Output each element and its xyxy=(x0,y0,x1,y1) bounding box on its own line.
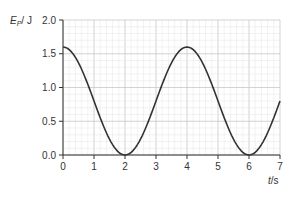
y-tick-label: 2.0 xyxy=(42,15,56,26)
x-tick-label: 5 xyxy=(215,161,221,172)
x-tick-label: 6 xyxy=(246,161,252,172)
x-tick-label: 7 xyxy=(277,161,283,172)
x-tick-label: 1 xyxy=(91,161,97,172)
y-tick-label: 0.5 xyxy=(42,116,56,127)
x-tick-label: 4 xyxy=(184,161,190,172)
x-axis-label: t/s xyxy=(268,175,279,186)
x-tick-labels: 01234567 xyxy=(60,161,283,172)
x-tick-label: 2 xyxy=(122,161,128,172)
x-tick-label: 3 xyxy=(153,161,159,172)
y-tick-label: 1.5 xyxy=(42,48,56,59)
y-axis-label: EP/ J xyxy=(10,15,32,27)
y-tick-label: 0.0 xyxy=(42,150,56,161)
chart: 0.00.51.01.52.0 01234567 EP/ J t/s xyxy=(0,0,300,200)
y-tick-labels: 0.00.51.01.52.0 xyxy=(42,15,56,161)
grid xyxy=(63,20,280,155)
x-tick-label: 0 xyxy=(60,161,66,172)
y-tick-label: 1.0 xyxy=(42,82,56,93)
axes xyxy=(59,20,280,159)
